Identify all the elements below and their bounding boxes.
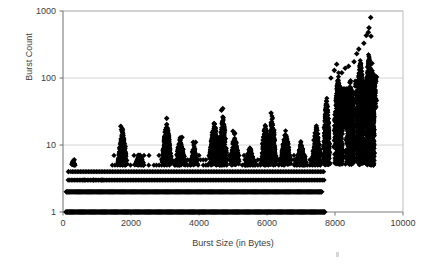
y-tick-label-1000: 1000 [16,6,56,16]
y-tick-label-10: 10 [16,140,56,150]
x-tick-label-6000: 6000 [245,218,289,228]
y-axis-label: Burst Count [24,2,34,112]
y-tick-label-100: 100 [16,73,56,83]
data-points [63,15,379,215]
scatter-chart-figure: Burst Count Burst Size (in Bytes) 1000 1… [0,0,433,264]
x-tick-label-8000: 8000 [313,218,357,228]
scan-artifact [336,252,339,257]
y-tick-label-1: 1 [16,207,56,217]
x-tick-label-0: 0 [41,218,85,228]
x-tick-label-10000: 10000 [381,218,425,228]
x-tick-label-4000: 4000 [177,218,221,228]
x-axis-label: Burst Size (in Bytes) [63,238,403,248]
x-tick-label-2000: 2000 [109,218,153,228]
